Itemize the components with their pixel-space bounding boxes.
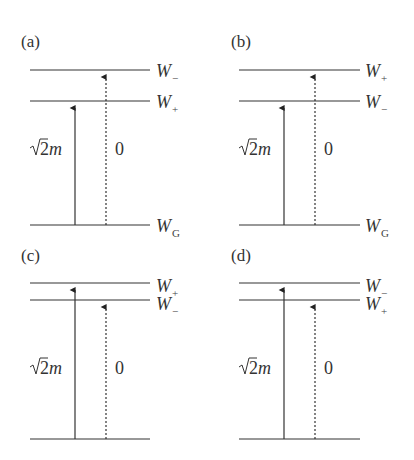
svg-text:m: m bbox=[258, 139, 271, 159]
solid-arrow-label: 2 m bbox=[30, 139, 62, 159]
dashed-arrow-label: 0 bbox=[324, 139, 333, 159]
solid-arrow-label: 2 m bbox=[30, 358, 62, 378]
level-label-upper: W− bbox=[156, 61, 178, 84]
level-label-upper: W+ bbox=[365, 61, 387, 84]
dashed-arrow-label: 0 bbox=[324, 358, 333, 378]
svg-text:2: 2 bbox=[249, 139, 258, 159]
level-label-middle: W+ bbox=[156, 92, 178, 115]
svg-text:m: m bbox=[49, 139, 62, 159]
panel-label-c: (c) bbox=[21, 246, 40, 265]
svg-text:2: 2 bbox=[40, 358, 49, 378]
panel-label-a: (a) bbox=[21, 32, 40, 51]
level-label-ground: WG bbox=[365, 216, 389, 239]
level-label-middle: W− bbox=[365, 92, 387, 115]
solid-arrow-label: 2 m bbox=[239, 358, 271, 378]
panel-b: (b) W+ W− WG 2 m 0 bbox=[231, 32, 389, 239]
svg-text:m: m bbox=[258, 358, 271, 378]
panel-a: (a) W− W+ WG 2 m 0 bbox=[21, 32, 180, 239]
dashed-arrow-label: 0 bbox=[115, 358, 124, 378]
svg-text:2: 2 bbox=[40, 139, 49, 159]
panel-c: (c) W+ W− 2 m 0 bbox=[21, 246, 178, 439]
level-label-ground: WG bbox=[156, 216, 180, 239]
panel-label-b: (b) bbox=[231, 32, 251, 51]
panel-label-d: (d) bbox=[231, 246, 251, 265]
dashed-arrow-label: 0 bbox=[115, 139, 124, 159]
svg-text:2: 2 bbox=[249, 358, 258, 378]
panel-d: (d) W− W+ 2 m 0 bbox=[231, 246, 387, 439]
solid-arrow-label: 2 m bbox=[239, 139, 271, 159]
svg-text:m: m bbox=[49, 358, 62, 378]
energy-level-figure: (a) W− W+ WG 2 m 0 (b) W+ W− WG 2 m 0 bbox=[0, 0, 414, 460]
